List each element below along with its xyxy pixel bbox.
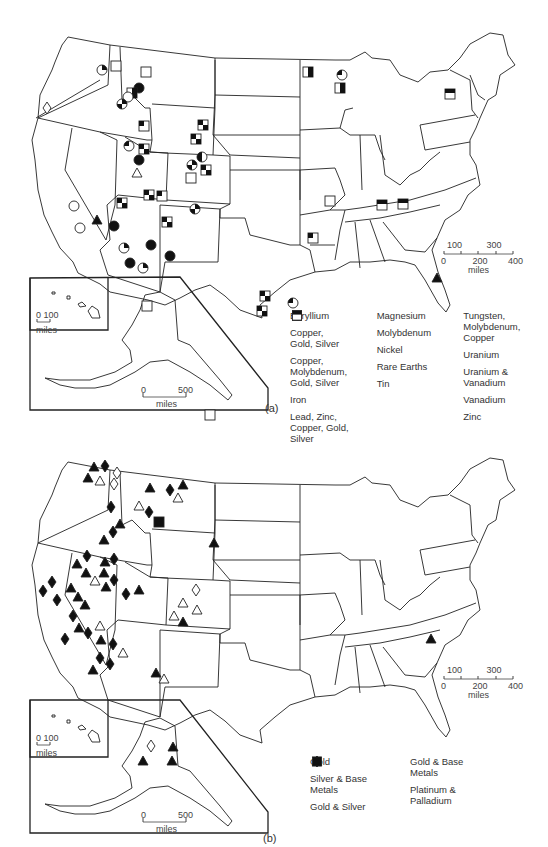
marker-triangle-filled xyxy=(99,535,109,544)
marker-triangle-open xyxy=(95,621,105,630)
marker-triangle-filled xyxy=(83,473,93,482)
hawaii-scale-unit: miles xyxy=(36,325,57,335)
marker-square-checker xyxy=(198,120,208,130)
marker-circle-open xyxy=(69,201,79,211)
alaska-scale-right: 500 xyxy=(178,810,193,820)
scale-tick: 400 xyxy=(508,256,523,266)
marker-triangle-open xyxy=(95,476,105,485)
marker-circle-filled xyxy=(134,155,144,165)
scale-tick: 100 xyxy=(447,240,462,250)
marker-triangle-filled xyxy=(72,559,82,568)
legend-label: Iron xyxy=(290,394,306,405)
marker-square-checker xyxy=(191,134,201,144)
legend-item: Uranium xyxy=(463,349,548,360)
alaska-scale-right: 500 xyxy=(178,385,193,395)
marker-circle-molybdenum xyxy=(190,204,200,214)
marker-square-open-top xyxy=(142,301,152,311)
legend-item: Tin xyxy=(377,378,464,389)
square-filled-icon xyxy=(310,756,324,767)
scale-unit: miles xyxy=(468,690,489,700)
legend-label: Tin xyxy=(377,378,390,389)
legend-item: Gold & Base Metals xyxy=(410,756,510,778)
marker-triangle-open xyxy=(118,648,128,657)
marker-square-checker xyxy=(260,291,270,301)
legend-item: Copper, Molybdenum, Gold, Silver xyxy=(290,355,377,388)
marker-triangle-filled xyxy=(151,668,161,677)
marker-square-open-top xyxy=(111,61,121,71)
marker-square-open-top xyxy=(186,173,196,183)
marker-circle-filled xyxy=(125,258,135,268)
legend-a: BerylliumCopper, Gold, SilverCopper, Mol… xyxy=(290,310,548,420)
marker-circle-quarter xyxy=(138,263,148,273)
legend-column: Gold & Base MetalsPlatinum & Palladium xyxy=(410,756,510,836)
caption-a: (a) xyxy=(265,402,278,414)
marker-triangle-filled xyxy=(167,756,177,765)
marker-triangle-open xyxy=(134,501,144,510)
marker-circle-half xyxy=(197,152,207,162)
legend-item: Magnesium xyxy=(377,310,464,321)
legend-label: Gold & Base Metals xyxy=(410,756,463,778)
marker-circle-magnesium xyxy=(124,141,134,151)
hawaii-scale-unit: miles xyxy=(36,748,57,758)
marker-diamond-filled xyxy=(69,610,77,622)
marker-diamond-filled xyxy=(39,585,47,597)
marker-triangle-open xyxy=(192,605,202,614)
legend-label: Rare Earths xyxy=(377,361,428,372)
marker-circle-open xyxy=(75,223,85,233)
marker-square-checker xyxy=(201,165,211,175)
marker-square-filled xyxy=(154,517,164,527)
marker-triangle-open xyxy=(173,493,183,502)
legend-label: Uranium xyxy=(463,349,499,360)
marker-square-checker xyxy=(257,306,267,316)
marker-triangle-filled xyxy=(115,519,125,528)
marker-triangle-filled xyxy=(66,583,76,592)
alaska-hawaii-inset xyxy=(30,277,268,410)
hawaii-scale-label: 0 100 xyxy=(36,310,59,320)
legend-item: Platinum & Palladium xyxy=(410,784,510,806)
marker-circle-quarter xyxy=(119,243,129,253)
marker-square-top-bar xyxy=(445,89,455,99)
marker-triangle-open xyxy=(132,168,142,177)
alaska-hawaii-inset xyxy=(30,700,268,833)
legend-item: Rare Earths xyxy=(377,361,464,372)
square-top-bar-icon xyxy=(290,310,304,321)
marker-square-half-right xyxy=(335,83,345,93)
marker-circle-filled xyxy=(146,240,156,250)
marker-square-open-top xyxy=(205,410,215,420)
scale-tick: 400 xyxy=(508,681,523,691)
marker-triangle-open xyxy=(169,611,179,620)
marker-square-checker xyxy=(117,198,127,208)
legend-label: Platinum & Palladium xyxy=(410,784,456,806)
legend-item: Uranium & Vanadium xyxy=(463,366,548,388)
marker-diamond-filled xyxy=(166,484,174,496)
legend-label: Magnesium xyxy=(377,310,426,321)
legend-item: Silver & Base Metals xyxy=(310,773,410,795)
marker-square-checker xyxy=(144,190,154,200)
marker-diamond-filled xyxy=(110,553,118,565)
marker-square-uv xyxy=(157,191,167,201)
marker-triangle-open xyxy=(178,598,188,607)
scale-top-labels: 100 300 xyxy=(447,665,502,675)
marker-square-checker xyxy=(162,217,172,227)
marker-triangle-filled xyxy=(426,634,436,643)
state-outlines xyxy=(32,33,515,318)
map-panel-a: 100 300 0 200 400 miles 0 100 miles 0 50… xyxy=(0,0,548,430)
marker-diamond-filled xyxy=(96,652,104,664)
marker-circle-molybdenum xyxy=(187,160,197,170)
marker-diamond-open xyxy=(110,478,118,490)
legend-column: GoldSilver & Base MetalsGold & Silver xyxy=(310,756,410,836)
scale-bar-main xyxy=(444,251,513,254)
legend-column: Tungsten, Molybdenum, CopperUraniumUrani… xyxy=(463,310,548,420)
scale-tick: 300 xyxy=(487,665,502,675)
marker-square-uv xyxy=(308,233,318,243)
marker-diamond-filled xyxy=(101,460,109,472)
scale-tick: 300 xyxy=(487,240,502,250)
marker-square-half-right xyxy=(303,67,313,77)
marker-diamond-open xyxy=(147,740,155,752)
scale-top-labels: 100 300 xyxy=(447,240,502,250)
legend-label: Zinc xyxy=(463,411,481,422)
marker-circle-magnesium xyxy=(288,298,298,308)
legend-column: BerylliumCopper, Gold, SilverCopper, Mol… xyxy=(290,310,377,420)
legend-label: Silver & Base Metals xyxy=(310,773,367,795)
marker-diamond-filled xyxy=(83,550,91,562)
